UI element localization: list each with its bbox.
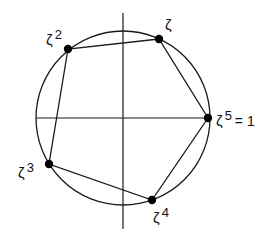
zeta-2-label: ζ2 — [46, 27, 62, 48]
zeta-2-point — [64, 45, 72, 53]
zeta-5-point — [204, 114, 212, 122]
zeta-4-label: ζ4 — [153, 205, 169, 226]
zeta-3-label: ζ3 — [18, 160, 34, 181]
root-points — [45, 35, 212, 204]
zeta-5-label: ζ5= 1 — [216, 108, 255, 129]
zeta-3-point — [45, 160, 53, 168]
pentagon — [49, 39, 208, 200]
zeta-4-point — [148, 196, 156, 204]
zeta-1-label: ζ — [165, 16, 172, 33]
zeta-1-point — [155, 35, 163, 43]
roots-of-unity-diagram: ζζ2ζ3ζ4ζ5= 1 — [0, 0, 268, 243]
